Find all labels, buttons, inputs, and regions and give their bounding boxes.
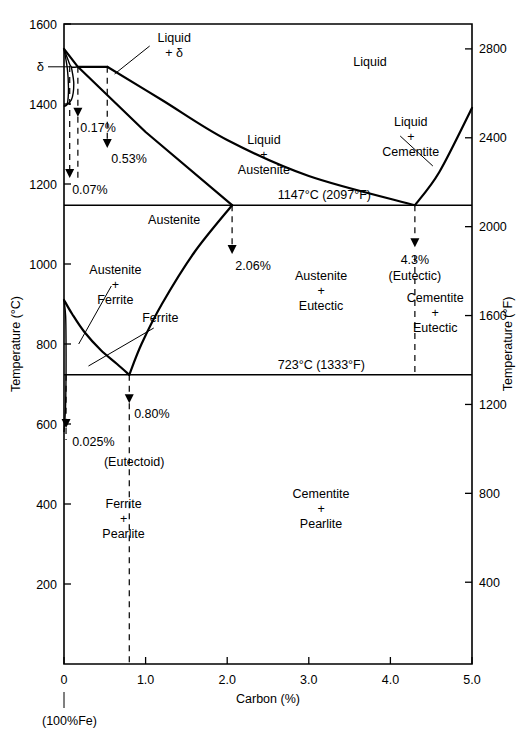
austenite-ferrite-leader bbox=[79, 286, 112, 344]
callout-0-025-label: 0.025% bbox=[72, 435, 114, 449]
delta-tick-label: δ bbox=[37, 59, 44, 74]
x-tick-label-3: 3.0 bbox=[300, 673, 317, 687]
origin-note-label: (100%Fe) bbox=[42, 714, 97, 728]
region-ferrite-line-0: Ferrite bbox=[142, 311, 178, 325]
region-austenite-plus-eutectic-line-1: + bbox=[317, 284, 324, 298]
region-ferrite-plus-pearlite-line-2: Pearlite bbox=[102, 527, 144, 541]
callout-0-53-arrowhead bbox=[103, 139, 112, 148]
region-liquid-plus-austenite-line-1: + bbox=[260, 148, 267, 162]
y-right-tick-label-2000: 2000 bbox=[479, 220, 507, 234]
region-austenite-plus-eutectic-line-2: Eutectic bbox=[299, 299, 343, 313]
y-left-tick-label-200: 200 bbox=[36, 578, 57, 592]
callout-0-07-arrowhead bbox=[65, 169, 74, 178]
callout-0-17-arrowhead bbox=[73, 108, 82, 117]
region-cementite-plus-pearlite-line-0: Cementite bbox=[293, 487, 350, 501]
x-tick-label-1: 1.0 bbox=[137, 673, 154, 687]
phase-diagram-figure: 1600140012001000800600400200δ28002400200… bbox=[0, 0, 530, 732]
callout-0-07-label: 0.07% bbox=[72, 183, 107, 197]
boundary-acm-cementite-solvus bbox=[129, 205, 232, 375]
y-left-tick-label-800: 800 bbox=[36, 338, 57, 352]
callout-2-06-label: 2.06% bbox=[235, 259, 270, 273]
boundary-liquidus-delta bbox=[64, 49, 107, 67]
region-austenite-plus-ferrite-line-0: Austenite bbox=[89, 263, 141, 277]
x-tick-label-0: 0 bbox=[61, 673, 68, 687]
region-ferrite-plus-pearlite-line-0: Ferrite bbox=[106, 497, 142, 511]
region-austenite-line-0: Austenite bbox=[148, 213, 200, 227]
region-liquid-plus-austenite-line-0: Liquid bbox=[247, 133, 280, 147]
y-right-tick-label-2800: 2800 bbox=[479, 42, 507, 56]
callout-0-80-label: 0.80% bbox=[134, 407, 169, 421]
liquid-delta-leader bbox=[115, 46, 150, 74]
x-tick-label-4: 4.0 bbox=[382, 673, 399, 687]
callout-0-80-arrowhead bbox=[125, 394, 134, 403]
x-tick-label-2: 2.0 bbox=[219, 673, 236, 687]
callout-0-53-label: 0.53% bbox=[111, 152, 146, 166]
y-right-tick-label-400: 400 bbox=[479, 576, 500, 590]
region-liquid-plus-cementite-line-0: Liquid bbox=[394, 115, 427, 129]
callout-0-17-label: 0.17% bbox=[80, 121, 115, 135]
region-liquid-plus-delta-line-1: + δ bbox=[165, 46, 183, 60]
region-cementite-plus-pearlite-line-1: + bbox=[317, 502, 324, 516]
region-cementite-plus-eutectic-line-2: Eutectic bbox=[413, 321, 457, 335]
y-left-tick-label-1200: 1200 bbox=[29, 178, 57, 192]
region-austenite-plus-eutectic-line-0: Austenite bbox=[295, 269, 347, 283]
x-axis-title: Carbon (%) bbox=[236, 692, 300, 706]
region-liquid-line-0: Liquid bbox=[353, 55, 386, 69]
region-cementite-plus-eutectic-line-0: Cementite bbox=[407, 291, 464, 305]
y-right-axis-title: Temperature (°F) bbox=[501, 297, 515, 392]
region-ferrite-plus-pearlite-line-1: + bbox=[120, 512, 127, 526]
eutectoid-isotherm-label: 723°C (1333°F) bbox=[278, 358, 365, 372]
region-austenite-plus-ferrite-line-1: + bbox=[112, 278, 119, 292]
region-liquid-plus-delta-line-0: Liquid bbox=[157, 31, 190, 45]
y-left-tick-label-1400: 1400 bbox=[29, 98, 57, 112]
y-right-tick-label-1200: 1200 bbox=[479, 398, 507, 412]
y-left-tick-label-600: 600 bbox=[36, 418, 57, 432]
region-liquid-plus-cementite-line-1: + bbox=[407, 130, 414, 144]
iron-carbon-diagram: 1600140012001000800600400200δ28002400200… bbox=[0, 0, 530, 732]
callout-4-3-arrowhead bbox=[410, 238, 419, 247]
y-right-tick-label-2400: 2400 bbox=[479, 131, 507, 145]
y-right-tick-label-800: 800 bbox=[479, 487, 500, 501]
callout-2-06-arrowhead bbox=[228, 245, 237, 254]
callout-0-80-sublabel: (Eutectoid) bbox=[104, 455, 164, 469]
region-liquid-plus-cementite-line-2: Cementite bbox=[382, 145, 439, 159]
x-tick-label-5: 5.0 bbox=[463, 673, 480, 687]
y-left-tick-label-400: 400 bbox=[36, 498, 57, 512]
region-cementite-plus-eutectic-line-1: + bbox=[432, 306, 439, 320]
y-left-tick-label-1600: 1600 bbox=[29, 18, 57, 32]
y-left-axis-title: Temperature (°C) bbox=[9, 296, 23, 392]
y-left-tick-label-1000: 1000 bbox=[29, 258, 57, 272]
region-liquid-plus-austenite-line-2: Austenite bbox=[238, 163, 290, 177]
region-austenite-plus-ferrite-line-2: Ferrite bbox=[97, 293, 133, 307]
region-cementite-plus-pearlite-line-2: Pearlite bbox=[300, 517, 342, 531]
